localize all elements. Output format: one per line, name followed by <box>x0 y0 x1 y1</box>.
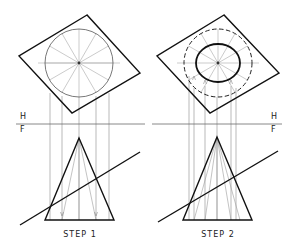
caption-step-1: STEP 1 <box>63 231 96 239</box>
fold-label-f-step-2: F <box>271 126 276 134</box>
cutting-plane-edge <box>158 151 278 222</box>
fold-label-h-step-1: H <box>20 113 26 121</box>
center-mark <box>217 62 220 65</box>
cutting-plane-edge <box>20 152 140 225</box>
cone-outline <box>45 138 114 220</box>
panel-step-2 <box>152 15 282 222</box>
cone-elements <box>194 137 240 220</box>
cone-outline <box>183 137 252 220</box>
cone-elements <box>62 138 96 220</box>
caption-step-2: STEP 2 <box>201 231 234 239</box>
fold-label-h-step-2: H <box>271 113 277 121</box>
technical-drawing <box>0 0 296 245</box>
center-mark <box>78 62 81 65</box>
panel-step-1 <box>16 15 145 225</box>
fold-label-f-step-1: F <box>20 126 25 134</box>
